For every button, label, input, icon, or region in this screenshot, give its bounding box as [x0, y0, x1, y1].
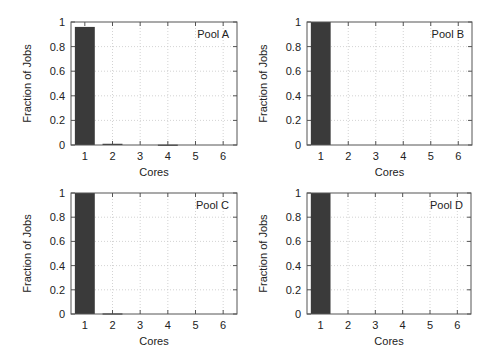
x-tick-label: 2 — [345, 150, 351, 162]
x-tick-label: 4 — [165, 319, 171, 331]
y-tick-label: 1 — [295, 16, 301, 28]
x-tick-label: 2 — [345, 319, 351, 331]
x-tick-label: 4 — [165, 150, 171, 162]
y-tick-label: 0.2 — [50, 284, 65, 296]
y-tick-label: 0.6 — [50, 235, 65, 247]
bar-cores-1 — [311, 22, 331, 145]
x-tick-label: 5 — [192, 319, 198, 331]
y-tick-label: 0.4 — [286, 260, 301, 272]
x-tick-label: 1 — [82, 319, 88, 331]
subplot-pool-b: 00.20.40.60.81123456Pool BCoresFraction … — [257, 16, 472, 178]
subplot-pool-a: 00.20.40.60.81123456Pool ACoresFraction … — [21, 16, 237, 178]
y-tick-label: 0.6 — [286, 65, 301, 77]
x-tick-label: 5 — [192, 150, 198, 162]
y-tick-label: 0.4 — [286, 90, 301, 102]
x-tick-label: 6 — [454, 319, 460, 331]
panel-label: Pool D — [430, 199, 463, 211]
y-tick-label: 1 — [59, 16, 65, 28]
x-tick-label: 6 — [220, 150, 226, 162]
y-tick-label: 0 — [295, 308, 301, 320]
y-tick-label: 0 — [295, 139, 301, 151]
y-tick-label: 0.6 — [50, 65, 65, 77]
panel-label: Pool A — [197, 28, 229, 40]
y-tick-label: 0 — [59, 308, 65, 320]
bar-cores-1 — [311, 193, 331, 314]
y-axis-label: Fraction of Jobs — [257, 214, 269, 293]
y-tick-label: 0.4 — [50, 90, 65, 102]
y-axis-label: Fraction of Jobs — [21, 44, 33, 123]
x-tick-label: 3 — [373, 150, 379, 162]
y-tick-label: 0.6 — [286, 235, 301, 247]
y-tick-label: 0.8 — [50, 211, 65, 223]
x-tick-label: 4 — [400, 150, 406, 162]
x-tick-label: 6 — [220, 319, 226, 331]
x-tick-label: 2 — [109, 319, 115, 331]
x-tick-label: 4 — [400, 319, 406, 331]
panel-label: Pool B — [432, 28, 464, 40]
y-tick-label: 0.8 — [286, 211, 301, 223]
subplot-pool-c: 00.20.40.60.81123456Pool CCoresFraction … — [21, 187, 237, 347]
plot-frame — [307, 193, 471, 314]
y-tick-label: 1 — [295, 187, 301, 199]
plot-frame — [307, 22, 472, 145]
x-axis-label: Cores — [139, 166, 169, 178]
y-axis-label: Fraction of Jobs — [21, 214, 33, 293]
x-tick-label: 6 — [455, 150, 461, 162]
bar-cores-1 — [75, 27, 95, 145]
y-axis-label: Fraction of Jobs — [257, 44, 269, 123]
y-tick-label: 1 — [59, 187, 65, 199]
y-tick-label: 0 — [59, 139, 65, 151]
x-axis-label: Cores — [139, 335, 169, 347]
y-tick-label: 0.2 — [286, 114, 301, 126]
chart-grid: 00.20.40.60.81123456Pool ACoresFraction … — [0, 0, 491, 363]
x-tick-label: 5 — [428, 150, 434, 162]
x-tick-label: 3 — [137, 150, 143, 162]
y-tick-label: 0.2 — [50, 114, 65, 126]
plot-frame — [71, 22, 237, 145]
x-tick-label: 2 — [109, 150, 115, 162]
x-axis-label: Cores — [374, 335, 404, 347]
x-tick-label: 1 — [82, 150, 88, 162]
x-tick-label: 1 — [318, 319, 324, 331]
panel-label: Pool C — [196, 199, 229, 211]
y-tick-label: 0.8 — [50, 41, 65, 53]
bar-cores-1 — [75, 193, 95, 314]
x-tick-label: 3 — [372, 319, 378, 331]
y-tick-label: 0.8 — [286, 41, 301, 53]
plot-frame — [71, 193, 237, 314]
subplot-pool-d: 00.20.40.60.81123456Pool DCoresFraction … — [257, 187, 471, 347]
x-tick-label: 1 — [318, 150, 324, 162]
x-axis-label: Cores — [375, 166, 405, 178]
x-tick-label: 5 — [427, 319, 433, 331]
y-tick-label: 0.4 — [50, 260, 65, 272]
y-tick-label: 0.2 — [286, 284, 301, 296]
x-tick-label: 3 — [137, 319, 143, 331]
